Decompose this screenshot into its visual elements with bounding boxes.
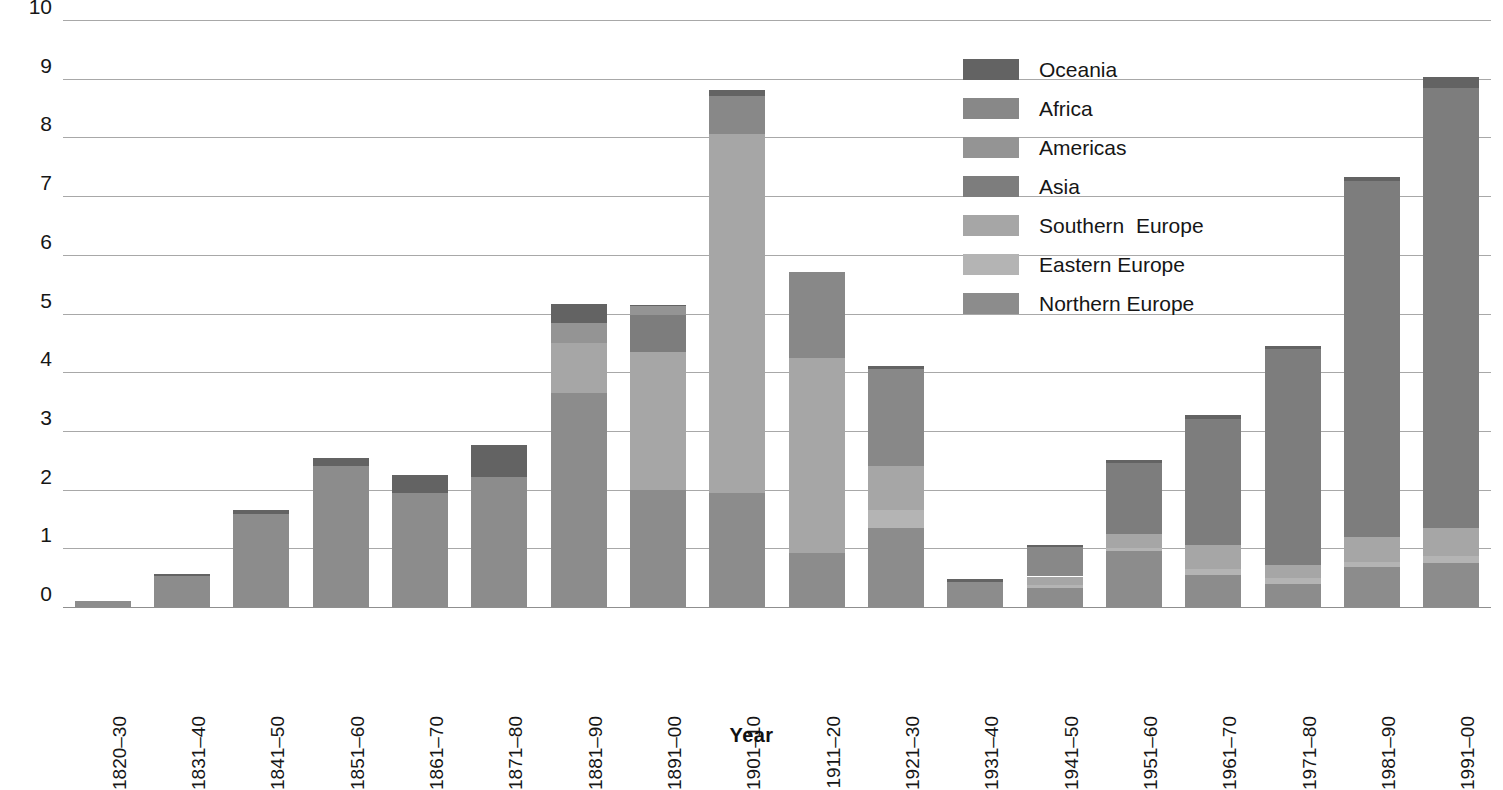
bar-segment[interactable] [233, 514, 289, 607]
gridline-0 [63, 607, 1491, 608]
bar-segment[interactable] [868, 466, 924, 510]
bar-segment[interactable] [1344, 562, 1400, 567]
y-tick-label: 8 [0, 113, 52, 134]
bar-segment[interactable] [947, 582, 1003, 607]
bar-group[interactable] [1344, 20, 1400, 607]
bar-segment[interactable] [1185, 575, 1241, 607]
bar-segment[interactable] [1106, 460, 1162, 464]
bar-segment[interactable] [1423, 563, 1479, 607]
legend-label: Oceania [1039, 59, 1117, 80]
bar-segment[interactable] [1185, 545, 1241, 568]
chart-legend: OceaniaAfricaAmericasAsiaSouthern Europe… [963, 50, 1204, 323]
bar-segment[interactable] [1106, 548, 1162, 552]
bar-segment[interactable] [789, 272, 845, 357]
bar-segment[interactable] [1423, 77, 1479, 88]
bar-segment[interactable] [1265, 346, 1321, 349]
y-tick-label: 9 [0, 55, 52, 76]
bar-group[interactable] [630, 20, 686, 607]
bar-segment[interactable] [1265, 584, 1321, 607]
bar-segment[interactable] [1423, 528, 1479, 556]
bar-segment[interactable] [709, 493, 765, 607]
legend-swatch-icon [963, 215, 1019, 236]
bar-segment[interactable] [392, 475, 448, 493]
bar-segment[interactable] [630, 352, 686, 490]
legend-swatch-icon [963, 293, 1019, 314]
legend-item[interactable]: Eastern Europe [963, 245, 1204, 284]
bar-segment[interactable] [1265, 565, 1321, 578]
bar-segment[interactable] [1344, 537, 1400, 563]
bar-segment[interactable] [630, 305, 686, 307]
bar-group[interactable] [471, 20, 527, 607]
bar-segment[interactable] [868, 528, 924, 607]
bar-segment[interactable] [630, 306, 686, 315]
bar-segment[interactable] [1265, 578, 1321, 584]
bar-segment[interactable] [551, 304, 607, 323]
bar-segment[interactable] [1185, 415, 1241, 419]
bar-segment[interactable] [313, 466, 369, 607]
bar-segment[interactable] [1185, 419, 1241, 545]
legend-swatch-icon [963, 176, 1019, 197]
bar-group[interactable] [551, 20, 607, 607]
bar-group[interactable] [392, 20, 448, 607]
bar-segment[interactable] [1027, 585, 1083, 589]
bar-segment[interactable] [1027, 547, 1083, 576]
legend-label: Southern Europe [1039, 215, 1204, 236]
bar-segment[interactable] [551, 343, 607, 393]
legend-item[interactable]: Southern Europe [963, 206, 1204, 245]
bar-segment[interactable] [1265, 349, 1321, 565]
bar-segment[interactable] [1027, 577, 1083, 585]
bar-segment[interactable] [630, 315, 686, 351]
bar-group[interactable] [868, 20, 924, 607]
legend-item[interactable]: Northern Europe [963, 284, 1204, 323]
legend-item[interactable]: Oceania [963, 50, 1204, 89]
legend-item[interactable]: Asia [963, 167, 1204, 206]
bar-segment[interactable] [868, 369, 924, 466]
legend-swatch-icon [963, 98, 1019, 119]
bar-segment[interactable] [789, 358, 845, 553]
bar-segment[interactable] [1106, 463, 1162, 533]
bar-segment[interactable] [789, 553, 845, 607]
bar-segment[interactable] [154, 576, 210, 607]
bar-segment[interactable] [392, 493, 448, 607]
legend-label: Northern Europe [1039, 293, 1194, 314]
bar-segment[interactable] [868, 510, 924, 528]
bar-segment[interactable] [551, 323, 607, 343]
bar-segment[interactable] [709, 96, 765, 134]
bar-segment[interactable] [233, 510, 289, 515]
bar-segment[interactable] [471, 445, 527, 477]
bar-group[interactable] [1265, 20, 1321, 607]
bar-group[interactable] [233, 20, 289, 607]
bar-segment[interactable] [709, 134, 765, 492]
bar-segment[interactable] [551, 393, 607, 607]
bar-group[interactable] [789, 20, 845, 607]
bar-segment[interactable] [1344, 177, 1400, 182]
bar-segment[interactable] [471, 477, 527, 607]
legend-item[interactable]: Americas [963, 128, 1204, 167]
bar-group[interactable] [709, 20, 765, 607]
y-tick-label: 3 [0, 407, 52, 428]
legend-item[interactable]: Africa [963, 89, 1204, 128]
bar-segment[interactable] [313, 458, 369, 466]
bar-segment[interactable] [1185, 569, 1241, 575]
bar-group[interactable] [75, 20, 131, 607]
legend-label: Eastern Europe [1039, 254, 1185, 275]
legend-swatch-icon [963, 137, 1019, 158]
bar-segment[interactable] [1027, 545, 1083, 547]
bar-segment[interactable] [1423, 88, 1479, 528]
bar-segment[interactable] [1106, 551, 1162, 607]
bar-segment[interactable] [630, 490, 686, 607]
bar-segment[interactable] [1423, 556, 1479, 563]
bar-segment[interactable] [709, 90, 765, 96]
bar-segment[interactable] [75, 601, 131, 607]
bar-group[interactable] [1423, 20, 1479, 607]
bar-segment[interactable] [947, 579, 1003, 583]
bar-segment[interactable] [1027, 588, 1083, 607]
bar-segment[interactable] [868, 366, 924, 369]
bar-group[interactable] [313, 20, 369, 607]
bar-group[interactable] [154, 20, 210, 607]
bar-segment[interactable] [1344, 567, 1400, 607]
x-axis-labels: 1820–301831–401841–501851–601861–701871–… [63, 612, 1491, 722]
bar-segment[interactable] [154, 574, 210, 577]
bar-segment[interactable] [1344, 181, 1400, 536]
bar-segment[interactable] [1106, 534, 1162, 548]
